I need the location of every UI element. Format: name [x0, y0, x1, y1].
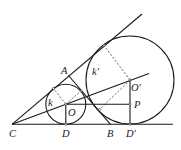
dashed-radius-o-upper — [54, 89, 66, 105]
label-a: A — [60, 65, 68, 76]
label-k-prime: k' — [92, 66, 100, 77]
label-o: O — [68, 107, 76, 118]
label-d: D — [61, 128, 70, 139]
label-p: P — [133, 99, 141, 110]
label-o-prime: O' — [131, 82, 142, 93]
upper-side-line — [12, 14, 142, 124]
label-c: C — [9, 128, 17, 139]
tangent-point-marker — [103, 44, 105, 46]
label-d-prime: D' — [125, 128, 137, 139]
center-o-prime-marker — [129, 79, 131, 81]
point-d-marker — [65, 123, 67, 125]
tangent-point-marker — [98, 108, 100, 110]
point-d-prime-marker — [129, 123, 131, 125]
dashed-radius-o-prime-ab — [100, 80, 131, 110]
dashed-radius-o-prime-upper — [104, 46, 130, 81]
tangent-point-marker — [52, 87, 54, 89]
label-b: B — [107, 128, 114, 139]
center-o-marker — [65, 103, 67, 105]
point-p-marker — [129, 103, 131, 105]
geometry-diagram: C A B D D' O O' P k k' — [0, 0, 181, 150]
label-k: k — [48, 97, 53, 108]
tangent-point-marker — [80, 90, 82, 92]
dashed-radius-o-ab — [66, 91, 81, 104]
